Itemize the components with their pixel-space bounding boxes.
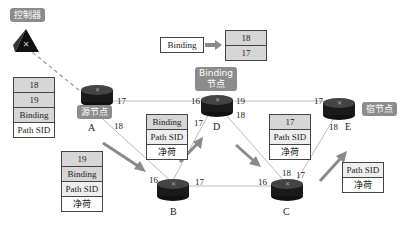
- svg-text:✕: ✕: [285, 180, 290, 187]
- svg-text:✕: ✕: [23, 40, 30, 49]
- port-c-17: 17: [296, 170, 305, 180]
- port-d-19: 19: [236, 96, 245, 106]
- port-b-16: 16: [149, 175, 158, 185]
- port-a-18: 18: [114, 121, 123, 131]
- svg-text:✕: ✕: [95, 86, 100, 93]
- binding-node-label: Binding 节点: [195, 67, 237, 91]
- router-c-icon[interactable]: ✕: [270, 178, 304, 202]
- svg-text:✕: ✕: [171, 180, 176, 187]
- node-e-label: E: [345, 121, 351, 132]
- label-stack-c-to-e: Path SID 净荷: [342, 162, 384, 193]
- node-c-label: C: [283, 206, 290, 217]
- svg-text:✕: ✕: [215, 96, 220, 103]
- port-e-17: 17: [314, 96, 323, 106]
- port-c-18: 18: [282, 168, 291, 178]
- port-b-17: 17: [195, 177, 204, 187]
- router-d-icon[interactable]: ✕: [200, 94, 234, 118]
- node-d-label: D: [213, 121, 220, 132]
- node-b-label: B: [170, 206, 177, 217]
- node-a-label: A: [88, 122, 95, 133]
- router-e-icon[interactable]: ✕: [322, 97, 356, 121]
- port-a-17: 17: [117, 96, 126, 106]
- label-stack-d-to-c: 17 Path SID 净荷: [269, 114, 311, 160]
- port-c-16: 16: [258, 177, 267, 187]
- label-stack-a-to-b: 19 Binding Path SID 净荷: [61, 151, 103, 212]
- svg-text:✕: ✕: [337, 99, 342, 106]
- destination-node-label: 宿节点: [362, 102, 397, 116]
- label-stack-b-to-d: Binding Path SID 净荷: [146, 114, 188, 160]
- binding-source-box: Binding: [160, 37, 204, 53]
- port-d-18: 18: [236, 110, 245, 120]
- controller-icon[interactable]: ✕: [12, 28, 40, 54]
- label-stack-at-a: 18 19 Binding Path SID: [13, 77, 55, 138]
- controller-label: 控制器: [10, 8, 45, 22]
- port-e-18: 18: [329, 122, 338, 132]
- port-d-17: 17: [194, 118, 203, 128]
- port-d-16: 16: [191, 96, 200, 106]
- binding-label-stack: 18 17: [225, 30, 267, 61]
- source-node-label: 源节点: [77, 105, 112, 119]
- router-b-icon[interactable]: ✕: [156, 178, 190, 202]
